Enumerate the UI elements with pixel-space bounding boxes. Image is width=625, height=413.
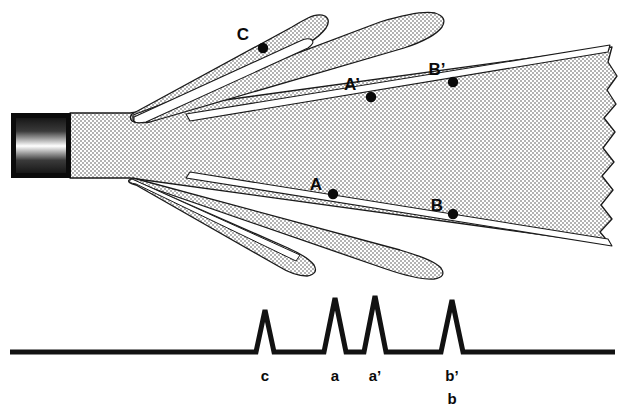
trace-axis-labels: caa’b’b bbox=[261, 367, 459, 407]
beam-label-A': A’ bbox=[344, 75, 360, 94]
beam-label-B': B’ bbox=[429, 60, 446, 79]
beam-point-A' bbox=[366, 92, 376, 102]
beam-label-A: A bbox=[310, 175, 322, 194]
trace-label-bprime: b’ bbox=[445, 367, 458, 384]
beam-point-B' bbox=[448, 77, 458, 87]
beam-point-B bbox=[448, 209, 458, 219]
trace-label-aprime: a’ bbox=[369, 367, 382, 384]
beam-label-B: B bbox=[431, 196, 443, 215]
beam-diagram-svg: CA’B’AB caa’b’b bbox=[0, 0, 625, 413]
beam-point-C bbox=[258, 43, 268, 53]
beam-label-C: C bbox=[237, 25, 249, 44]
trace-label-c: c bbox=[261, 367, 269, 384]
transducer-element bbox=[11, 113, 71, 178]
figure-canvas: CA’B’AB caa’b’b bbox=[0, 0, 625, 413]
echo-trace bbox=[10, 296, 615, 352]
trace-label-a: a bbox=[331, 367, 340, 384]
beam-point-A bbox=[328, 189, 338, 199]
trace-label-b: b bbox=[447, 390, 456, 407]
